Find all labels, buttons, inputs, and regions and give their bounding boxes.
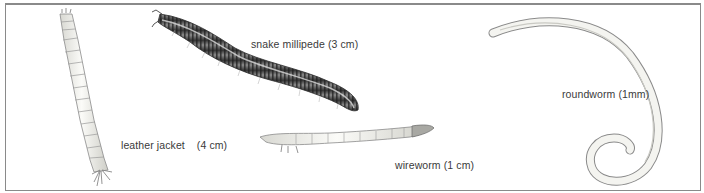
wireworm-label: wireworm (1 cm) — [395, 159, 474, 171]
roundworm-illustration — [493, 22, 658, 181]
roundworm-label: roundworm (1mm) — [562, 88, 649, 100]
leather-jacket-illustration — [60, 8, 112, 186]
leather-jacket-size: (4 cm) — [197, 139, 227, 151]
leather-jacket-name: leather jacket — [121, 139, 185, 151]
leather-jacket-label: leather jacket(4 cm) — [121, 139, 227, 151]
snake-millipede-illustration — [152, 10, 358, 111]
snake-millipede-label: snake millipede (3 cm) — [251, 38, 358, 50]
wireworm-illustration — [260, 125, 434, 153]
